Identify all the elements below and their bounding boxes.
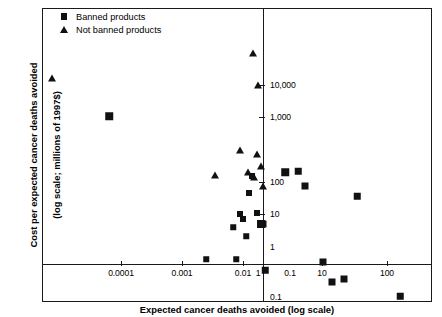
x-axis-line [42,264,432,265]
y-axis-title: Cost per expected cancer deaths avoided … [30,8,60,302]
data-point-not-banned [259,183,267,190]
data-point-banned [105,112,113,120]
legend-item: Not banned products [56,23,161,36]
data-point-banned [354,193,361,200]
data-point-banned [397,293,404,300]
data-point-banned [295,168,302,175]
y-tick-label: 1,000 [270,112,291,122]
y-axis-title-line1: Cost per expected cancer deaths avoided [28,63,40,248]
y-tick-label: 1 [270,242,275,252]
y-tick-label: 0.1 [270,292,282,302]
data-point-not-banned [236,147,244,154]
data-point-banned [329,279,336,286]
data-point-banned [254,210,260,216]
data-point-banned [281,168,289,176]
legend-item: Banned products [56,10,161,23]
data-point-banned [240,216,246,222]
x-tick-mark [243,261,244,266]
data-point-not-banned [249,50,257,57]
y-axis-line [263,8,264,302]
x-tick-label: 10 [317,268,326,278]
data-point-not-banned [254,82,262,89]
data-point-not-banned [253,151,261,158]
x-tick-label: 1 [256,268,261,278]
data-point-banned [302,183,309,190]
x-tick-label: 0.01 [235,268,251,278]
legend-label: Banned products [76,12,145,22]
data-point-banned [230,224,236,230]
chart-figure: 0.00010.0010.010.1110100 10,0001,0001001… [0,0,442,317]
data-point-banned [320,259,327,266]
y-tick-mark [259,117,265,118]
data-point-banned [243,233,249,239]
y-tick-label: 10,000 [270,80,296,90]
data-point-banned [246,190,252,196]
data-point-not-banned [250,174,258,181]
x-tick-label: 0.0001 [108,268,134,278]
x-tick-mark [121,261,122,266]
x-axis-title: Expected cancer deaths avoided (log scal… [42,304,432,315]
x-tick-mark [182,261,183,266]
x-tick-mark [387,261,388,266]
data-point-banned [203,256,209,262]
data-point-banned [262,267,269,274]
y-tick-label: 100 [270,177,284,187]
legend-label: Not banned products [76,25,161,35]
data-point-banned [233,256,239,262]
data-point-banned [341,276,348,283]
data-point-banned [260,221,267,228]
data-point-not-banned [211,172,219,179]
y-axis-title-line2: (log scale; millions of 1997$) [51,63,63,248]
y-tick-label: 10 [270,209,279,219]
data-point-not-banned [257,163,265,170]
x-tick-label: 100 [380,268,394,278]
x-tick-label: 0.001 [171,268,192,278]
x-tick-label: 0.1 [284,268,296,278]
chart-legend: Banned productsNot banned products [56,10,161,36]
